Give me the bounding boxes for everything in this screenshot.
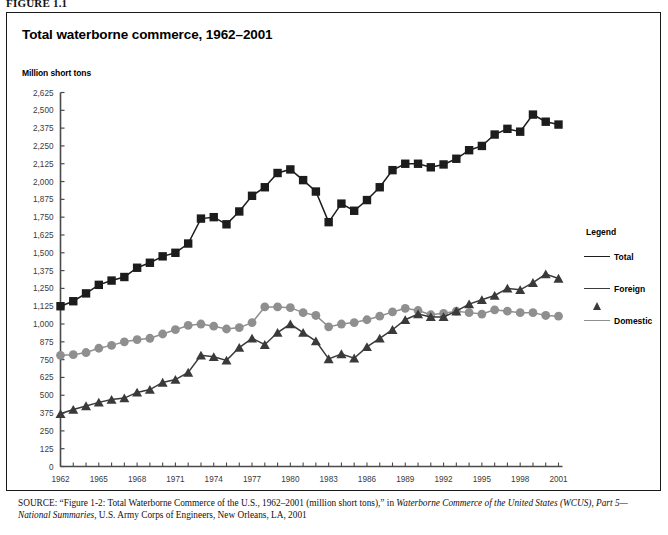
svg-text:625: 625 (40, 373, 54, 382)
square-marker (584, 251, 610, 263)
svg-text:2,625: 2,625 (33, 89, 54, 98)
series-total (56, 110, 562, 310)
legend-title: Legend (586, 227, 668, 237)
legend-item-total[interactable]: Total (584, 246, 668, 267)
source-text-2: U.S. Army Corps of Engineers, New Orlean… (97, 510, 307, 520)
svg-text:1980: 1980 (281, 475, 300, 484)
chart-axes (61, 93, 563, 467)
series-domestic (56, 303, 563, 360)
svg-text:1,375: 1,375 (33, 267, 54, 276)
chart-svg: 01252503755006257508751,0001,1251,2501,3… (0, 0, 668, 535)
svg-text:2,250: 2,250 (33, 142, 54, 151)
svg-text:875: 875 (40, 338, 54, 347)
svg-text:1995: 1995 (473, 475, 492, 484)
svg-text:1,625: 1,625 (33, 231, 54, 240)
svg-text:1974: 1974 (205, 475, 224, 484)
svg-text:1,000: 1,000 (33, 320, 54, 329)
svg-text:250: 250 (40, 427, 54, 436)
svg-text:1998: 1998 (511, 475, 530, 484)
svg-text:1965: 1965 (90, 475, 109, 484)
svg-text:1,250: 1,250 (33, 284, 54, 293)
svg-text:1992: 1992 (434, 475, 453, 484)
svg-text:0: 0 (49, 463, 54, 472)
svg-text:500: 500 (40, 391, 54, 400)
svg-text:1971: 1971 (166, 475, 185, 484)
legend-item-domestic[interactable]: Domestic (584, 310, 668, 331)
svg-text:1,125: 1,125 (33, 302, 54, 311)
svg-text:1983: 1983 (320, 475, 339, 484)
triangle-marker (584, 283, 610, 295)
svg-text:1,750: 1,750 (33, 213, 54, 222)
svg-text:2,000: 2,000 (33, 178, 54, 187)
legend-label-total: Total (614, 252, 634, 262)
svg-text:1977: 1977 (243, 475, 262, 484)
source-text-1: “Figure 1-2: Total Waterborne Commerce o… (57, 498, 396, 508)
legend-label-foreign: Foreign (614, 284, 645, 294)
source-lead: SOURCE: (18, 498, 57, 508)
svg-text:2,500: 2,500 (33, 106, 54, 115)
svg-text:1,500: 1,500 (33, 249, 54, 258)
svg-text:750: 750 (40, 356, 54, 365)
series-foreign (56, 270, 564, 418)
svg-text:375: 375 (40, 409, 54, 418)
chart-legend: Legend Total Foreign Domestic (584, 227, 668, 342)
svg-text:2,375: 2,375 (33, 124, 54, 133)
x-axis-ticks: 1962196519681971197419771980198319861989… (51, 463, 568, 484)
chart-plot-area: 01252503755006257508751,0001,1251,2501,3… (0, 0, 668, 535)
svg-text:2001: 2001 (549, 475, 568, 484)
svg-text:1986: 1986 (358, 475, 377, 484)
legend-label-domestic: Domestic (614, 316, 652, 326)
svg-text:2,125: 2,125 (33, 160, 54, 169)
circle-marker (584, 315, 610, 327)
svg-text:1,875: 1,875 (33, 195, 54, 204)
svg-text:1962: 1962 (51, 475, 70, 484)
svg-text:125: 125 (40, 445, 54, 454)
svg-text:1968: 1968 (128, 475, 147, 484)
svg-text:1989: 1989 (396, 475, 415, 484)
source-note: SOURCE: “Figure 1-2: Total Waterborne Co… (18, 497, 658, 522)
legend-item-foreign[interactable]: Foreign (584, 278, 668, 299)
